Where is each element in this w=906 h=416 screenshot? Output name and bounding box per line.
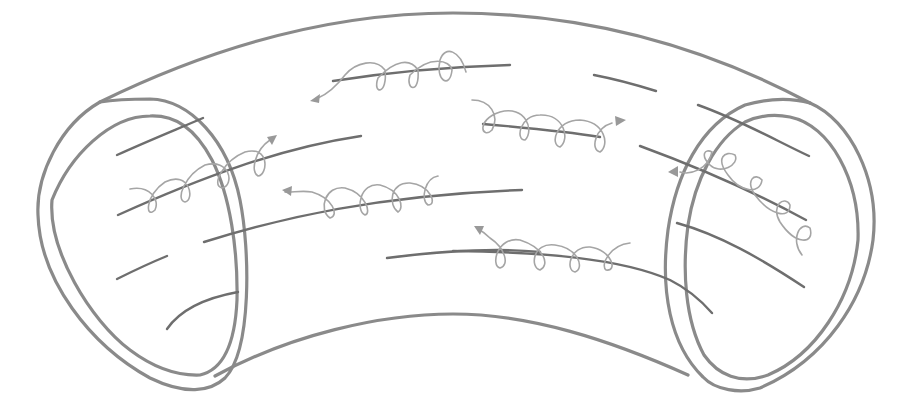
field-line [117, 256, 167, 279]
toroidal-tube-diagram [0, 0, 906, 416]
right-outer-ring [665, 99, 874, 390]
arrow-right-icon [615, 116, 626, 126]
field-line [204, 190, 522, 242]
helix-right-opening-left [668, 151, 811, 255]
left-inner-ring [52, 116, 237, 375]
helix-top-left [310, 51, 466, 103]
field-line [677, 223, 804, 287]
field-line [698, 105, 809, 156]
field-line [594, 75, 656, 91]
arrow-right-icon [267, 135, 277, 145]
field-lines [117, 65, 809, 329]
tube-bottom-edge [215, 314, 688, 376]
right-opening [665, 99, 874, 390]
field-line [333, 65, 510, 81]
arrow-left-icon [282, 186, 292, 196]
field-line [167, 292, 238, 329]
arrow-left-icon [474, 226, 484, 235]
field-line [453, 251, 712, 313]
arrow-left-icon [310, 94, 320, 103]
helical-trajectories [130, 51, 811, 272]
arrow-left-icon [668, 166, 678, 177]
tube-top-edge [100, 13, 810, 103]
field-line [117, 118, 203, 155]
field-line [483, 124, 600, 137]
